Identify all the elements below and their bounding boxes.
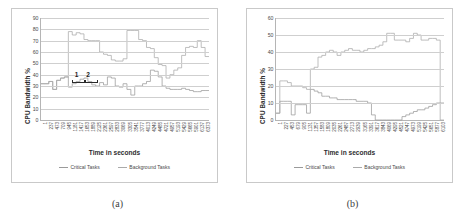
x-axis-tick-label: 6373 — [206, 122, 211, 132]
gridline — [41, 75, 209, 76]
x-axis-tick-label: 1653 — [85, 122, 90, 132]
x-axis-tick-label: 5425 — [423, 122, 428, 132]
x-axis-tick-label: 1 — [278, 122, 283, 124]
x-axis-tick-label: 5877 — [435, 122, 440, 132]
series-lines-a — [41, 18, 209, 120]
x-axis-tick-label: 2597 — [109, 122, 114, 132]
x-axis-tick-label: 4521 — [399, 122, 404, 132]
x-axis-tick-label: 1181 — [73, 122, 78, 131]
plot-area-b: 0102030405060 — [275, 18, 444, 121]
gridline — [41, 41, 209, 42]
x-axis-tick-label: 1809 — [326, 122, 331, 132]
y-axis-tick-label: 50 — [268, 32, 274, 38]
x-axis-tick-label: 4973 — [411, 122, 416, 132]
gridline — [276, 52, 444, 53]
x-axis-tick-label: 3305 — [128, 122, 133, 132]
gridline — [41, 109, 209, 110]
legend-a: Critical TasksBackground Tasks — [12, 164, 217, 170]
x-axis-tick-label: 1357 — [314, 122, 319, 132]
x-axis-tick-label: 1583 — [320, 122, 325, 132]
plot-area-a: 010203040506070809012 — [40, 18, 209, 121]
y-axis-tick-label: 50 — [33, 60, 39, 66]
x-axis-title-b: Time in seconds — [247, 149, 452, 156]
x-axis-tick-label: 6137 — [200, 122, 205, 132]
x-axis-tick-label: 3165 — [363, 122, 368, 132]
legend-item: Background Tasks — [118, 164, 170, 170]
y-axis-tick-label: 30 — [268, 66, 274, 72]
x-axis-tick-label: 4721 — [164, 122, 169, 132]
x-axis-tick-label: 4295 — [393, 122, 398, 132]
legend-swatch — [353, 167, 362, 168]
y-axis-tick-label: 40 — [33, 72, 39, 78]
plot-canvas-b: 0102030405060 — [275, 18, 444, 121]
gridline — [41, 52, 209, 53]
y-axis-tick-label: 60 — [268, 15, 274, 21]
y-axis-title-b: CPU Bandwidth % — [259, 48, 266, 144]
y-axis-tick-label: 60 — [33, 49, 39, 55]
x-axis-tick-label: 4747 — [405, 122, 410, 132]
x-axis-tick-label: 1889 — [91, 122, 96, 132]
x-axis-tick-label: 5901 — [194, 122, 199, 132]
legend-item: Critical Tasks — [294, 164, 335, 170]
x-axis-tick-label: 3069 — [121, 122, 126, 132]
legend-label: Background Tasks — [129, 164, 170, 170]
y-axis-tick-label: 0 — [36, 117, 39, 123]
x-axis-tick-label: 3541 — [134, 122, 139, 132]
y-axis-tick-label: 20 — [268, 83, 274, 89]
x-axis-tick-label: 4069 — [387, 122, 392, 132]
x-axis-tick-label: 5651 — [429, 122, 434, 132]
series-line — [276, 89, 444, 120]
gridline — [276, 103, 444, 104]
x-axis-tick-label: 2035 — [332, 122, 337, 132]
x-axis-tick-label: 3391 — [369, 122, 374, 132]
x-axis-tick-label: 1131 — [308, 122, 313, 131]
x-axis-tick-label: 2939 — [356, 122, 361, 132]
y-axis-tick-label: 40 — [268, 49, 274, 55]
x-axis-title-a: Time in seconds — [12, 149, 217, 156]
x-axis-tick-label: 679 — [296, 122, 301, 129]
chart-frame-a: CPU Bandwidth % 010203040506070809012 12… — [11, 8, 218, 183]
plot-annotation-label: 2 — [86, 71, 90, 78]
x-axis-tick-label: 1 — [43, 122, 48, 124]
x-axis-tick-label: 4013 — [146, 122, 151, 132]
x-axis-tick-label: 2261 — [338, 122, 343, 132]
x-axis-tick-label: 5193 — [176, 122, 181, 132]
gridline — [276, 69, 444, 70]
x-axis-tick-label: 5199 — [417, 122, 422, 132]
legend-label: Critical Tasks — [305, 164, 334, 170]
legend-item: Critical Tasks — [59, 164, 100, 170]
gridline — [276, 86, 444, 87]
gridline — [41, 63, 209, 64]
x-axis-tick-label: 237 — [49, 122, 54, 129]
x-axis-tick-label: 905 — [302, 122, 307, 129]
gridline — [41, 86, 209, 87]
chart-panel-a: CPU Bandwidth % 010203040506070809012 12… — [0, 0, 235, 215]
x-axis-tick-label: 1417 — [79, 122, 84, 132]
y-axis-tick-label: 90 — [33, 15, 39, 21]
plot-annotation-bracket — [84, 80, 98, 83]
plot-annotation-label: 1 — [75, 71, 79, 78]
x-axis-tick-label: 2713 — [350, 122, 355, 132]
legend-swatch — [118, 167, 127, 168]
x-axis-tick-label: 2125 — [97, 122, 102, 132]
y-axis-tick-label: 30 — [33, 83, 39, 89]
y-axis-tick-label: 70 — [33, 38, 39, 44]
gridline — [41, 29, 209, 30]
x-axis-tick-label: 4485 — [158, 122, 163, 132]
panel-caption-b: (b) — [235, 198, 470, 209]
legend-item: Background Tasks — [353, 164, 405, 170]
x-axis-tick-label: 4249 — [152, 122, 157, 132]
x-axis-tick-label: 4957 — [170, 122, 175, 132]
x-axis-tick-label: 453 — [290, 122, 295, 129]
x-axis-ticks-a: 1237473709945118114171653188921252361259… — [40, 122, 209, 148]
gridline — [41, 97, 209, 98]
panel-caption-a: (a) — [0, 198, 235, 209]
x-axis-tick-label: 227 — [284, 122, 289, 129]
x-axis-tick-label: 945 — [67, 122, 72, 129]
x-axis-tick-label: 473 — [55, 122, 60, 129]
gridline — [41, 18, 209, 19]
x-axis-tick-label: 2361 — [103, 122, 108, 132]
chart-frame-b: CPU Bandwidth % 0102030405060 1227453679… — [246, 8, 453, 183]
y-axis-tick-label: 0 — [271, 117, 274, 123]
gridline — [276, 18, 444, 19]
